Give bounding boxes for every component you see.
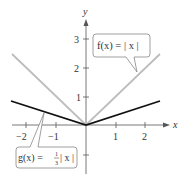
f-callout-label: f(x) = | x | [97,40,139,52]
x-axis-label: x [172,119,178,130]
g-callout-prefix: g(x) = [18,152,43,164]
g-fraction-num: 1 [55,151,58,157]
y-axis-arrow-icon [84,19,89,26]
x-tick-label: −2 [16,131,27,142]
y-tick-label: 1 [76,92,81,103]
g-fraction-den: 3 [55,160,58,166]
x-tick-label: 1 [113,131,118,142]
x-axis-arrow-icon [163,123,170,128]
y-axis-label: y [82,6,88,17]
x-tick-label: 2 [142,131,147,142]
chart-canvas: x y −2 −1 1 2 3 2 1 f(x) = | x | g(x) = … [0,0,183,176]
series-g-line [11,101,160,125]
y-tick-label: 2 [74,63,79,74]
g-callout-suffix: | x | [60,152,74,163]
x-tick-label: −1 [48,131,59,142]
y-tick-label: 3 [74,34,79,45]
f-callout: f(x) = | x | [93,34,150,72]
